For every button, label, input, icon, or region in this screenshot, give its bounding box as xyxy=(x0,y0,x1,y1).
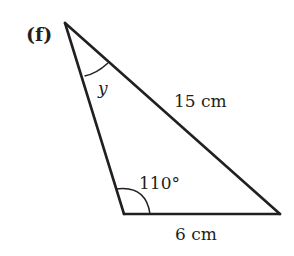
side-left xyxy=(65,23,124,214)
angle-label-110: 110° xyxy=(139,175,180,192)
part-label: (f) xyxy=(26,25,52,44)
angle-label-y: y xyxy=(98,80,108,97)
side-label-base: 6 cm xyxy=(175,226,217,243)
triangle-diagram: (f) y 15 cm 110° 6 cm xyxy=(0,0,294,256)
angle-arc-y xyxy=(85,63,109,76)
side-label-hypotenuse: 15 cm xyxy=(174,93,227,110)
